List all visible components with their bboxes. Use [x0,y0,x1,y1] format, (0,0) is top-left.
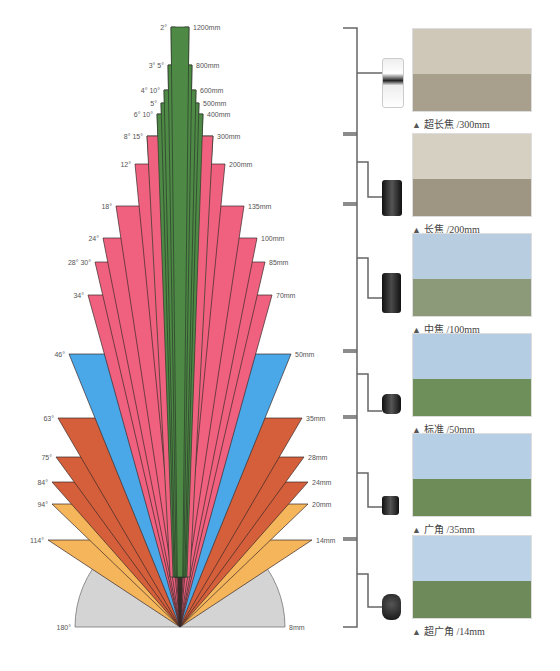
focal-length-label: 20mm [312,501,331,508]
caption-text: 超长焦 /300mm [424,119,490,130]
focal-length-label: 14mm [316,537,335,544]
focal-length-label: 1200mm [193,24,220,31]
angle-label: 6° 10° [134,111,153,118]
sample-photo-2 [412,133,532,217]
focal-length-label: 800mm [196,62,219,69]
sample-photo-4 [412,333,532,417]
angle-label: 4° 10° [141,87,160,94]
angle-label: 28° 30° [68,259,91,266]
angle-label: 46° [54,351,65,358]
wide-prime-lens-icon [382,496,399,515]
angle-label: 8° 15° [124,133,143,140]
white-telephoto-lens-icon [382,58,404,108]
triangle-icon: ▲ [412,120,421,130]
focal-length-label: 100mm [261,235,284,242]
caption-text: 广角 /35mm [424,524,475,535]
focal-length-label: 8mm [289,624,305,631]
black-zoom-lens-icon [382,273,401,313]
angle-label: 114° [30,537,44,544]
sample-photo-3 [412,233,532,317]
sample-photo-1 [412,28,532,112]
focal-length-label: 400mm [207,111,230,118]
focal-length-label: 70mm [276,292,295,299]
triangle-icon: ▲ [412,627,421,637]
focal-length-label: 35mm [306,415,325,422]
angle-label: 5° [150,100,157,107]
angle-label: 180° [57,624,71,631]
focal-length-label: 28mm [308,454,327,461]
angle-label: 3° 5° [149,62,164,69]
focal-length-label: 50mm [295,351,314,358]
sample-photo-5 [412,433,532,517]
sample-photo-6 [412,535,532,619]
ultra-wide-lens-icon [382,594,401,620]
focal-length-label: 200mm [229,161,252,168]
angle-of-view-fan-diagram [0,0,340,671]
photo-caption: ▲广角 /35mm [412,521,475,536]
angle-label: 18° [101,203,112,210]
photo-caption: ▲超广角 /14mm [412,623,485,638]
focal-length-label: 600mm [200,87,223,94]
focal-length-label: 85mm [269,259,288,266]
prime-lens-icon [382,394,401,414]
triangle-icon: ▲ [412,525,421,535]
photo-caption: ▲超长焦 /300mm [412,116,490,131]
black-telephoto-lens-icon [382,180,402,216]
angle-label: 63° [43,415,54,422]
angle-label: 12° [120,161,131,168]
angle-label: 94° [37,501,48,508]
caption-text: 超广角 /14mm [424,626,485,637]
angle-label: 24° [88,235,99,242]
angle-label: 84° [37,479,48,486]
focal-length-label: 500mm [203,100,226,107]
focal-length-label: 24mm [312,479,331,486]
angle-label: 2° [160,24,167,31]
focal-length-label: 135mm [248,203,271,210]
angle-label: 34° [73,292,84,299]
angle-label: 75° [41,454,52,461]
focal-length-label: 300mm [217,133,240,140]
